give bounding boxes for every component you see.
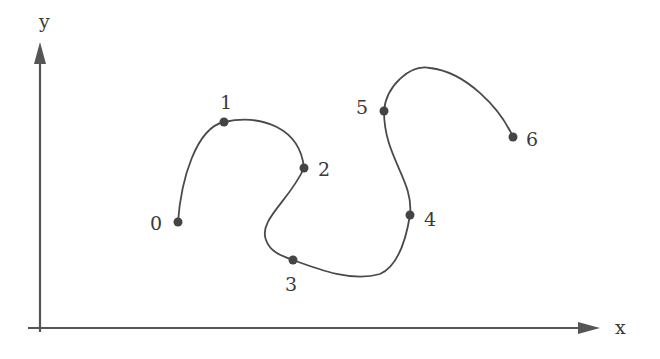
point-label-3: 3 [285, 275, 297, 294]
x-axis-label: x [615, 318, 626, 337]
control-point-6 [509, 133, 518, 142]
x-axis-arrow-icon [578, 322, 600, 334]
control-point-2 [300, 164, 309, 173]
point-label-4: 4 [424, 210, 436, 229]
point-label-1: 1 [220, 93, 232, 112]
control-point-0 [174, 218, 183, 227]
diagram-svg [0, 0, 660, 359]
point-label-0: 0 [150, 214, 162, 233]
control-point-5 [380, 107, 389, 116]
control-point-1 [220, 118, 229, 127]
point-label-5: 5 [356, 98, 368, 117]
y-axis-label: y [39, 12, 50, 31]
control-point-4 [406, 211, 415, 220]
spline-diagram: y x 0 1 2 3 4 5 6 [0, 0, 660, 359]
control-point-3 [289, 256, 298, 265]
point-label-6: 6 [526, 130, 538, 149]
y-axis-arrow-icon [34, 42, 46, 64]
point-label-2: 2 [318, 160, 330, 179]
